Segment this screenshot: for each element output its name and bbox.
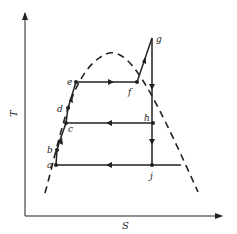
point-d bbox=[66, 106, 70, 110]
label-d: d bbox=[57, 104, 63, 114]
label-h: h bbox=[144, 113, 150, 123]
label-b: b bbox=[47, 145, 53, 155]
axes: T S bbox=[8, 13, 222, 231]
label-a: a bbox=[47, 160, 52, 170]
arrow-down-icon bbox=[149, 84, 155, 90]
label-e: e bbox=[67, 77, 72, 87]
point-e bbox=[74, 80, 78, 84]
point-a bbox=[54, 163, 58, 167]
arrow-down-icon bbox=[149, 139, 155, 145]
y-axis-label: T bbox=[8, 109, 19, 117]
cycle-lines bbox=[56, 38, 181, 165]
label-c: c bbox=[68, 124, 73, 134]
label-f: f bbox=[127, 87, 133, 97]
arrow-left-icon bbox=[106, 120, 112, 126]
x-axis-label: S bbox=[122, 220, 129, 231]
point-h bbox=[151, 121, 155, 125]
point-j bbox=[150, 163, 154, 167]
arrow-up-right-icon bbox=[142, 56, 146, 64]
point-b bbox=[55, 148, 59, 152]
label-g: g bbox=[156, 34, 162, 44]
point-labels: a b c d e f g h j bbox=[47, 34, 162, 181]
ts-diagram: T S a b c d e f bbox=[0, 0, 237, 234]
arrow-right-icon bbox=[108, 79, 114, 85]
arrow-left-icon bbox=[106, 162, 112, 168]
point-f bbox=[135, 80, 139, 84]
label-j: j bbox=[148, 171, 153, 181]
